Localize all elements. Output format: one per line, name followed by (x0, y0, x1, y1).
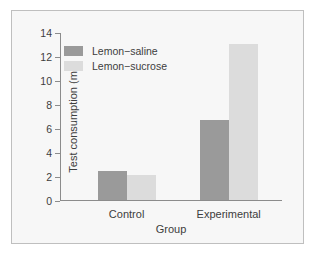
legend-swatch-saline (64, 46, 83, 56)
x-axis-spine (60, 200, 282, 201)
y-tick-label: 14 (40, 27, 52, 39)
x-category-label-control: Control (109, 208, 144, 220)
legend-label: Lemon−sucrose (92, 60, 167, 72)
legend-item-sucrose: Lemon−sucrose (64, 58, 167, 73)
bar-control-saline (98, 171, 127, 200)
y-tick-mark (55, 153, 60, 154)
y-tick-label: 4 (46, 147, 52, 159)
figure-frame: 02468101214 ControlExperimental Test con… (11, 10, 304, 244)
y-tick-mark (55, 177, 60, 178)
legend-label: Lemon−saline (92, 45, 158, 57)
bar-experimental-sucrose (229, 44, 258, 200)
y-tick-mark (55, 57, 60, 58)
x-axis-title: Group (60, 223, 282, 235)
legend-swatch-sucrose (64, 61, 83, 71)
y-tick-mark (55, 81, 60, 82)
y-tick-label: 0 (46, 195, 52, 207)
legend-item-saline: Lemon−saline (64, 43, 167, 58)
y-tick-mark (55, 33, 60, 34)
y-tick-mark (55, 129, 60, 130)
y-tick-label: 10 (40, 75, 52, 87)
y-tick-mark (55, 201, 60, 202)
y-tick-label: 12 (40, 51, 52, 63)
y-axis-spine (60, 33, 61, 201)
y-tick-mark (55, 105, 60, 106)
bar-control-sucrose (127, 175, 156, 200)
bar-experimental-saline (200, 120, 229, 200)
x-category-label-experimental: Experimental (197, 208, 261, 220)
chart-legend: Lemon−salineLemon−sucrose (64, 43, 167, 73)
y-tick-label: 2 (46, 171, 52, 183)
y-tick-label: 6 (46, 123, 52, 135)
y-tick-label: 8 (46, 99, 52, 111)
